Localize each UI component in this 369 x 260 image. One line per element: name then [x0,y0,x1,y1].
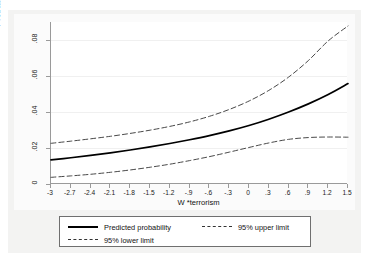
x-tick-mark [327,184,328,188]
x-tick-mark [208,184,209,188]
x-tick-mark [169,184,170,188]
x-tick-mark [90,184,91,188]
legend-key-dashed-upper-icon [200,222,234,232]
series-line [51,84,348,160]
x-tick-mark [268,184,269,188]
x-tick-label: 1.5 [335,189,359,196]
legend-entry-upper: 95% upper limit [200,221,289,233]
legend-label-upper: 95% upper limit [234,223,289,232]
series-curves [51,22,348,184]
x-tick-mark [149,184,150,188]
x-tick-mark [347,184,348,188]
x-tick-mark [189,184,190,188]
chart-legend: Predicted probability 95% upper limit 95… [59,216,311,247]
legend-key-solid-icon [66,222,100,232]
legend-entry-predicted: Predicted probability [66,221,171,233]
x-tick-mark [129,184,130,188]
x-tick-mark [109,184,110,188]
legend-label-predicted: Predicted probability [100,223,171,232]
y-tick-label: 0 [31,173,38,193]
plot-inner [51,22,347,183]
y-tick-label: .02 [31,137,38,157]
x-tick-mark [228,184,229,188]
legend-label-lower: 95% lower limit [100,236,154,245]
x-tick-mark [307,184,308,188]
series-line [51,26,348,143]
x-tick-mark [50,184,51,188]
legend-key-dashed-lower-icon [66,235,100,245]
y-tick-label: .06 [31,65,38,85]
legend-entry-lower: 95% lower limit [66,234,154,246]
x-tick-mark [70,184,71,188]
y-tick-label: .04 [31,101,38,121]
y-axis-title: Probability of the rule of law [0,0,2,50]
y-tick-label: .08 [31,29,38,49]
plot-area [50,22,347,184]
x-tick-mark [248,184,249,188]
x-tick-mark [288,184,289,188]
chart-figure: Probability of the rule of law 0.02.04.0… [0,0,369,260]
x-axis-title: W *terrorism [50,198,347,207]
series-line [51,137,348,177]
